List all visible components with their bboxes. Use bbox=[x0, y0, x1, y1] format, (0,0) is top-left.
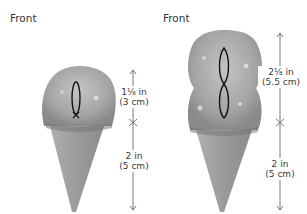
right-cone-dimension: 2 in (5 cm) bbox=[262, 158, 298, 180]
right-scoop bbox=[188, 30, 262, 130]
right-dimension-arrow bbox=[276, 33, 284, 210]
left-ice-cream bbox=[42, 66, 116, 212]
ice-cream-diagram bbox=[0, 0, 307, 214]
right-scoop-dimension: 2⅛ in (5.5 cm) bbox=[258, 66, 304, 88]
left-cone bbox=[50, 126, 104, 212]
right-cone bbox=[196, 130, 252, 212]
left-cone-dimension: 2 in (5 cm) bbox=[116, 150, 152, 172]
right-ice-cream bbox=[188, 30, 262, 212]
right-view-label: Front bbox=[163, 12, 190, 24]
left-view-label: Front bbox=[10, 12, 37, 24]
left-scoop bbox=[42, 66, 116, 126]
left-scoop-dimension: 1⅛ in (3 cm) bbox=[116, 86, 152, 108]
